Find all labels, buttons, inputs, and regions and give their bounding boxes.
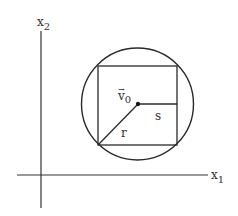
center-point <box>136 102 140 106</box>
x2-axis-label: x2 <box>37 15 50 32</box>
v0-label: v0 <box>117 89 131 105</box>
segment-r <box>98 104 138 145</box>
x1-axis-label: x1 <box>211 168 224 185</box>
r-label: r <box>121 126 127 140</box>
s-label: s <box>155 109 161 123</box>
diagram-canvas: x2 x1 → v0 s r <box>0 0 238 216</box>
